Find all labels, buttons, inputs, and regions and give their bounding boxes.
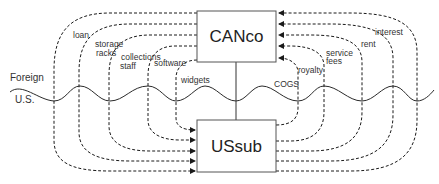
label-rent: rent: [361, 39, 376, 49]
region-us-label: U.S.: [15, 94, 34, 105]
label-loan: loan: [73, 30, 89, 40]
flow-service-fees-arrow: [276, 46, 324, 141]
label-staff: staff: [120, 61, 137, 71]
border-wave-line: [10, 86, 434, 101]
ussub-label: USsub: [211, 137, 262, 156]
canco-label: CANco: [210, 27, 264, 46]
label-fees: fees: [326, 56, 342, 66]
flow-widgets-arrow: [176, 60, 197, 130]
label-interest: interest: [375, 27, 404, 37]
label-software: software: [154, 58, 186, 68]
canco-box: CANco: [197, 11, 276, 62]
region-foreign-label: Foreign: [10, 72, 44, 83]
label-racks: racks: [96, 48, 116, 58]
flow-cogs-royalty-arrow: [276, 58, 298, 125]
label-cogs: COGS: [274, 79, 299, 89]
ussub-box: USsub: [197, 120, 276, 172]
label-widgets: widgets: [180, 75, 210, 85]
label-royalty: royalty: [298, 65, 324, 75]
transfer-pricing-diagram: CANco USsub Foreign U.S. loan storage ra…: [0, 0, 439, 184]
